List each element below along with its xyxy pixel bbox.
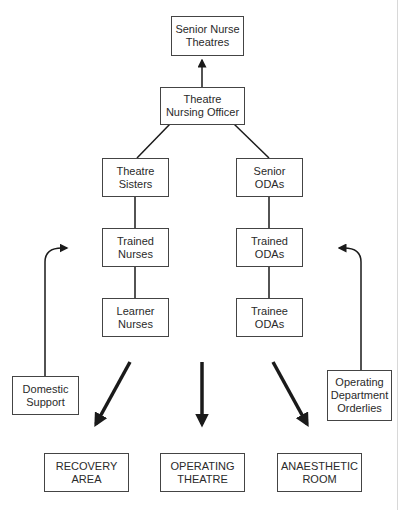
node-label: Sisters [119, 178, 153, 191]
node-trainee-odas: Trainee ODAs [236, 298, 303, 337]
node-label: Trained [117, 235, 154, 248]
node-label: THEATRE [177, 473, 228, 486]
connector-lines [0, 0, 401, 510]
node-label: Orderlies [337, 402, 382, 415]
node-label: Theatres [186, 36, 229, 49]
node-operating-theatre: OPERATING THEATRE [160, 453, 245, 492]
arrow-odo [339, 248, 361, 370]
arrow-to-recovery [96, 362, 130, 424]
node-label: Trained [251, 235, 288, 248]
node-label: Senior [254, 165, 286, 178]
node-label: Learner [117, 305, 155, 318]
node-operating-department-orderlies: Operating Department Orderlies [327, 370, 392, 421]
node-label: Nurses [118, 318, 153, 331]
node-theatre-sisters: Theatre Sisters [102, 158, 169, 197]
node-label: Domestic [23, 383, 69, 396]
node-label: ODAs [255, 178, 284, 191]
node-label: Theatre [117, 165, 155, 178]
node-label: Theatre [184, 93, 222, 106]
node-anaesthetic-room: ANAESTHETIC ROOM [277, 453, 362, 492]
node-label: Nursing Officer [166, 106, 239, 119]
node-trained-odas: Trained ODAs [236, 228, 303, 267]
node-trained-nurses: Trained Nurses [102, 228, 169, 267]
arrow-domestic-support [45, 248, 67, 376]
node-learner-nurses: Learner Nurses [102, 298, 169, 337]
node-label: Operating [335, 376, 383, 389]
node-label: Senior Nurse [175, 23, 239, 36]
node-label: ROOM [302, 473, 336, 486]
node-label: Trainee [251, 305, 288, 318]
node-senior-odas: Senior ODAs [236, 158, 303, 197]
node-recovery-area: RECOVERY AREA [44, 453, 129, 492]
node-label: Support [26, 396, 65, 409]
node-label: ODAs [255, 248, 284, 261]
node-theatre-nursing-officer: Theatre Nursing Officer [160, 87, 245, 125]
node-label: Department [331, 389, 388, 402]
node-label: Nurses [118, 248, 153, 261]
node-label: OPERATING [171, 460, 235, 473]
node-senior-nurse-theatres: Senior Nurse Theatres [171, 16, 244, 56]
node-label: AREA [72, 473, 102, 486]
page-edge-divider [397, 0, 398, 510]
arrow-to-anaesthetic [273, 362, 307, 424]
node-label: ODAs [255, 318, 284, 331]
node-label: RECOVERY [56, 460, 118, 473]
node-domestic-support: Domestic Support [12, 376, 79, 415]
node-label: ANAESTHETIC [281, 460, 358, 473]
